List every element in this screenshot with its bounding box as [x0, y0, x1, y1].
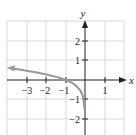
graph: x −3 −2 −1 1 y 2 1 −1 −2: [0, 0, 136, 135]
curve-left-arrow-icon: [7, 65, 15, 71]
x-tick-label: −2: [40, 85, 51, 96]
x-axis-label: x: [128, 74, 134, 86]
x-axis: x −3 −2 −1 1: [7, 74, 134, 96]
y-tick-label: −1: [69, 94, 80, 105]
x-tick-label: −1: [59, 85, 70, 96]
x-tick-label: 1: [103, 85, 108, 96]
y-tick-label: 1: [75, 55, 80, 66]
y-axis-label: y: [80, 7, 86, 19]
x-tick-label: −3: [22, 85, 33, 96]
y-axis: y 2 1 −1 −2: [69, 7, 88, 135]
y-tick-label: 2: [75, 36, 80, 47]
y-tick-label: −2: [69, 114, 80, 125]
x-axis-arrow-icon: [119, 77, 127, 83]
